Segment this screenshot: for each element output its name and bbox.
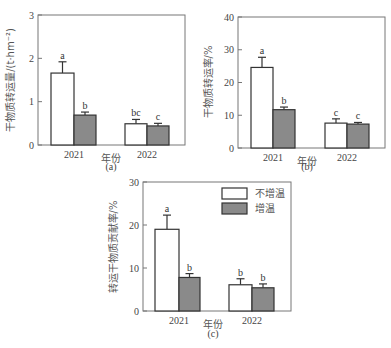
y-tick-label: 30 (224, 44, 234, 55)
legend-label: 增温 (255, 202, 275, 214)
bar-no-warming (229, 285, 252, 311)
y-tick-label: 20 (129, 220, 139, 231)
figure: 0123abbcc20212022年份(a)干物质转运量/(t·hm⁻²)010… (0, 0, 391, 348)
bar-warming (347, 124, 369, 148)
y-tick-label: 0 (229, 143, 234, 154)
y-tick-label: 3 (29, 10, 34, 21)
y-tick-label: 10 (224, 110, 234, 121)
x-tick-label: 2022 (337, 152, 357, 163)
significance-letter: a (165, 203, 170, 214)
significance-letter: a (260, 45, 265, 56)
significance-letter: c (334, 107, 339, 118)
bar-warming (273, 110, 295, 148)
y-tick-label: 30 (129, 177, 139, 188)
y-tick-label: 0 (134, 306, 139, 317)
significance-letter: b (83, 100, 88, 111)
bar-warming (179, 277, 200, 311)
panel-label: (b) (301, 161, 313, 173)
x-tick-label: 2021 (169, 315, 189, 326)
y-axis-label: 干物质转运量/(t·hm⁻²) (4, 28, 16, 132)
legend-swatch (222, 188, 247, 199)
bar-no-warming (251, 67, 273, 148)
x-tick-label: 2022 (242, 315, 262, 326)
y-axis-label: 转运干物质贡献率/% (107, 201, 119, 294)
bar-no-warming (125, 124, 147, 145)
bar-no-warming (325, 123, 347, 148)
significance-letter: c (156, 111, 161, 122)
y-tick-label: 40 (224, 12, 234, 23)
bar-no-warming (51, 73, 74, 145)
significance-letter: c (356, 110, 361, 121)
bar-warming (147, 126, 169, 145)
x-tick-label: 2021 (263, 152, 283, 163)
bar-no-warming (155, 229, 179, 311)
significance-letter: b (282, 95, 287, 106)
bar-warming (252, 288, 274, 311)
significance-letter: b (261, 272, 266, 283)
y-axis-label: 干物质转运率/% (202, 46, 214, 119)
y-tick-label: 2 (29, 53, 34, 64)
x-tick-label: 2022 (137, 149, 157, 160)
x-tick-label: 2021 (64, 149, 84, 160)
significance-letter: bc (131, 107, 141, 118)
significance-letter: b (238, 267, 243, 278)
significance-letter: a (60, 50, 65, 61)
panel-label: (c) (207, 328, 218, 340)
y-tick-label: 10 (129, 263, 139, 274)
legend-swatch (222, 203, 247, 214)
y-tick-label: 1 (29, 96, 34, 107)
bar-warming (74, 115, 96, 145)
panel-label: (a) (105, 161, 116, 173)
legend-label: 不增温 (255, 187, 285, 199)
significance-letter: b (187, 262, 192, 273)
y-tick-label: 20 (224, 77, 234, 88)
y-tick-label: 0 (29, 140, 34, 151)
